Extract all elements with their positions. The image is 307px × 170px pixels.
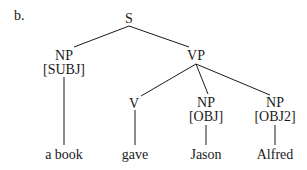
example-label: b. — [14, 9, 25, 23]
edge-vp-np-obj2 — [196, 64, 270, 95]
edge-s-np-subj — [74, 26, 129, 47]
tree-edges — [0, 0, 307, 170]
node-vp: VP — [187, 49, 205, 63]
node-np-obj2-category: NP — [266, 96, 284, 110]
edge-vp-v — [141, 64, 196, 96]
node-np-subj-category: NP — [55, 49, 73, 63]
node-np-obj-category: NP — [197, 96, 215, 110]
leaf-gave: gave — [122, 148, 148, 162]
node-s: S — [125, 12, 133, 26]
leaf-a-book: a book — [45, 148, 83, 162]
node-np-subj-function: [SUBJ] — [43, 63, 85, 77]
node-np-obj-function: [OBJ] — [189, 110, 223, 124]
node-np-obj2-function: [OBJ2] — [254, 110, 295, 124]
node-v: V — [129, 97, 139, 111]
leaf-alfred: Alfred — [257, 148, 294, 162]
leaf-jason: Jason — [190, 148, 221, 162]
edge-s-vp — [129, 26, 189, 47]
